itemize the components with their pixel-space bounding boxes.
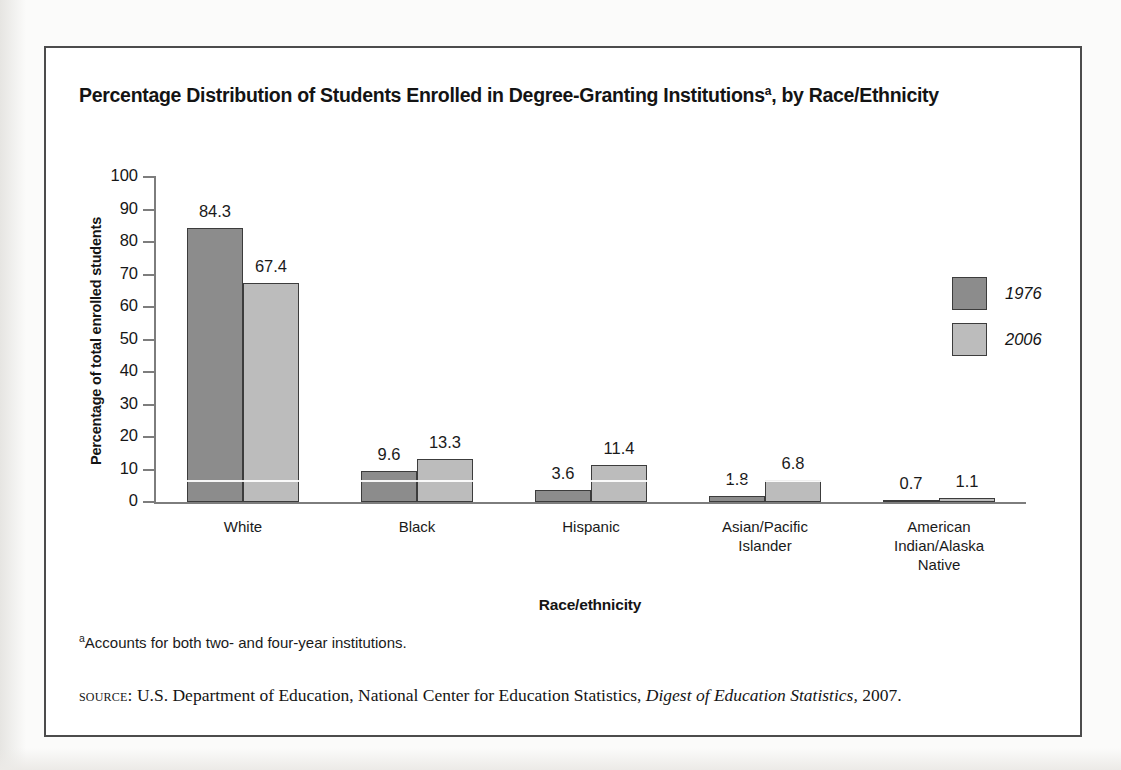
figure-frame: Percentage Distribution of Students Enro… <box>44 46 1082 737</box>
bar-1976-white <box>187 228 243 502</box>
category-label-line: Indian/Alaska <box>844 537 1034 556</box>
y-axis-line <box>154 176 156 504</box>
category-label-line: Asian/Pacific <box>670 518 860 537</box>
y-axis-tick <box>143 339 154 341</box>
y-axis-tick <box>143 436 154 438</box>
source-kicker: source: <box>79 685 133 705</box>
legend-label-2006: 2006 <box>1005 330 1042 349</box>
chart-legend: 19762006 <box>952 270 1042 362</box>
category-label-line: Islander <box>670 537 860 556</box>
bar-2006-white <box>243 283 299 502</box>
legend-item-1976: 1976 <box>952 270 1042 316</box>
bar-value-label: 1.1 <box>932 472 1002 491</box>
x-axis-title: Race/ethnicity <box>154 596 1026 614</box>
y-axis-tick-label: 10 <box>78 459 138 478</box>
bar-1976-black <box>361 471 417 502</box>
y-axis-tick <box>143 274 154 276</box>
category-label-line: Black <box>322 518 512 537</box>
bar-2006-hispanic <box>591 465 647 502</box>
y-axis-tick-label: 50 <box>78 329 138 348</box>
x-axis-line <box>154 502 1026 504</box>
bar-1976-american-indian-alaska-native <box>883 500 939 502</box>
source-pre: U.S. Department of Education, National C… <box>133 685 646 705</box>
bar-1976-asian-pacific-islander <box>709 496 765 502</box>
bar-value-label: 13.3 <box>410 433 480 452</box>
source-post: 2007. <box>858 685 902 705</box>
x-axis-category-label: White <box>148 518 338 537</box>
y-axis-tick-label: 30 <box>78 394 138 413</box>
y-axis-tick-label: 100 <box>78 166 138 185</box>
y-axis-tick-label: 90 <box>78 199 138 218</box>
source-note: source: U.S. Department of Education, Na… <box>79 685 902 706</box>
bar-value-label: 11.4 <box>584 439 654 458</box>
x-axis-category-label: Black <box>322 518 512 537</box>
legend-swatch-2006 <box>952 323 987 356</box>
x-axis-category-label: AmericanIndian/AlaskaNative <box>844 518 1034 574</box>
bar-value-label: 6.8 <box>758 454 828 473</box>
x-axis-category-label: Hispanic <box>496 518 686 537</box>
legend-label-1976: 1976 <box>1005 284 1042 303</box>
y-axis-tick <box>143 404 154 406</box>
y-axis-tick-label: 20 <box>78 426 138 445</box>
y-axis-tick <box>143 176 154 178</box>
y-axis-tick <box>143 371 154 373</box>
y-axis-tick-label: 80 <box>78 231 138 250</box>
bar-value-label: 84.3 <box>180 202 250 221</box>
category-label-line: White <box>148 518 338 537</box>
bar-2006-american-indian-alaska-native <box>939 498 995 502</box>
y-axis-tick <box>143 501 154 503</box>
y-axis-tick-label: 0 <box>78 491 138 510</box>
legend-item-2006: 2006 <box>952 316 1042 362</box>
bar-1976-hispanic <box>535 490 591 502</box>
bar-2006-black <box>417 459 473 502</box>
legend-swatch-1976 <box>952 277 987 310</box>
y-axis-tick-label: 40 <box>78 361 138 380</box>
y-axis-tick <box>143 469 154 471</box>
category-label-line: Native <box>844 556 1034 575</box>
source-publication-title: Digest of Education Statistics, <box>646 685 858 705</box>
y-axis-tick <box>143 306 154 308</box>
bar-2006-asian-pacific-islander <box>765 480 821 502</box>
bar-value-label: 3.6 <box>528 464 598 483</box>
bar-value-label: 67.4 <box>236 257 306 276</box>
category-label-line: American <box>844 518 1034 537</box>
x-axis-category-label: Asian/PacificIslander <box>670 518 860 556</box>
y-axis-tick-label: 70 <box>78 264 138 283</box>
y-axis-tick-label: 60 <box>78 296 138 315</box>
bar-value-label: 1.8 <box>702 470 772 489</box>
category-label-line: Hispanic <box>496 518 686 537</box>
page-canvas: Percentage Distribution of Students Enro… <box>0 0 1121 770</box>
y-axis-tick <box>143 209 154 211</box>
footnote-text: Accounts for both two- and four-year ins… <box>85 634 407 651</box>
y-axis-tick <box>143 241 154 243</box>
footnote: aAccounts for both two- and four-year in… <box>79 634 407 651</box>
